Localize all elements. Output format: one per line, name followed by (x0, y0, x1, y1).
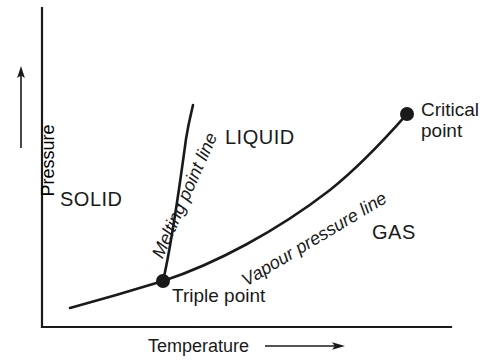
pressure-up-arrow-icon (17, 66, 25, 148)
triple-point-marker (156, 274, 170, 288)
x-axis-label: Temperature (148, 336, 249, 356)
phase-diagram-figure: SOLID LIQUID GAS Melting point line Vapo… (0, 0, 487, 364)
region-label-solid: SOLID (60, 188, 123, 210)
region-label-liquid: LIQUID (225, 126, 295, 148)
critical-point-label-line1: Critical (421, 99, 479, 120)
sublimation-curve (70, 281, 163, 308)
critical-point-label-line2: point (421, 120, 462, 141)
temperature-right-arrow-icon (265, 342, 345, 350)
phase-diagram-canvas (0, 0, 487, 364)
point-label-critical-point: Criticalpoint (421, 99, 479, 142)
region-label-gas: GAS (372, 221, 416, 243)
y-axis-label-wrap: Pressure (38, 91, 59, 231)
y-axis-label: Pressure (38, 124, 58, 196)
critical-point-marker (400, 107, 414, 121)
point-label-triple-point: Triple point (172, 285, 265, 306)
